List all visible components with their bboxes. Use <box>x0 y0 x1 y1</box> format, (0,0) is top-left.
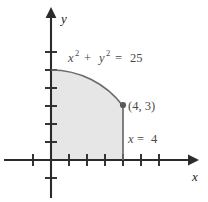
circle-equation-label: x 2 + y 2 = 25 <box>67 48 143 65</box>
equation-var-y: y <box>97 51 105 65</box>
equation-plus-sign: + <box>84 51 91 65</box>
equation-exponent-1: 2 <box>75 48 79 58</box>
point-marker-4-3 <box>120 102 126 108</box>
y-axis-label: y <box>59 11 67 26</box>
line-label-value: 4 <box>151 132 158 146</box>
line-label-equals: = <box>137 132 144 146</box>
x-axis-label: x <box>191 169 198 184</box>
point-coordinate-label: (4, 3) <box>128 99 155 113</box>
equation-var-x: x <box>67 51 74 65</box>
y-axis-arrowhead <box>46 7 57 18</box>
equation-value: 25 <box>130 51 143 65</box>
equation-exponent-2: 2 <box>106 48 110 58</box>
coordinate-plane-svg: y x x 2 + y 2 = 25 (4, 3) x = 4 <box>0 0 208 202</box>
x-axis-arrowhead <box>188 155 199 166</box>
equation-equals-sign: = <box>115 51 122 65</box>
math-figure: y x x 2 + y 2 = 25 (4, 3) x = 4 <box>0 0 208 202</box>
line-label-var: x <box>127 132 134 146</box>
line-equation-label: x = 4 <box>127 132 158 146</box>
shaded-region <box>51 70 123 160</box>
